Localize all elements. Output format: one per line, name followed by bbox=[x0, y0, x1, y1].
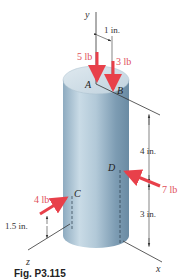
ab-dimension-arrow bbox=[97, 35, 111, 41]
x-axis-label: x bbox=[155, 263, 161, 274]
point-c-label: C bbox=[74, 188, 81, 199]
d-height-label: 3 in. bbox=[140, 209, 156, 219]
force-d-label: 7 lb bbox=[162, 184, 177, 195]
force-c-label: 4 lb bbox=[34, 194, 49, 205]
point-a-label: A bbox=[84, 79, 92, 90]
z-axis-label: z bbox=[25, 256, 30, 267]
force-d-arrow bbox=[126, 172, 160, 186]
force-a-label: 5 lb bbox=[77, 51, 92, 62]
point-b-label: B bbox=[117, 85, 123, 96]
c-height-label: 1.5 in. bbox=[5, 221, 28, 231]
figure-caption: Fig. P3.115 bbox=[14, 268, 66, 279]
top-to-d-label: 4 in. bbox=[140, 146, 156, 156]
x-axis-lower bbox=[123, 241, 162, 262]
force-b-label: 3 lb bbox=[116, 56, 131, 67]
ab-dimension-label: 1 in. bbox=[104, 25, 120, 35]
point-d-label: D bbox=[107, 162, 116, 173]
y-axis-label: y bbox=[84, 9, 90, 20]
